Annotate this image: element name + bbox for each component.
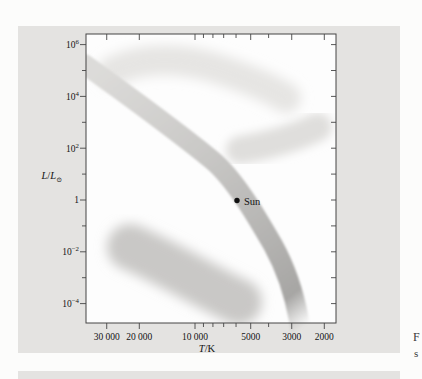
page-background: 30 00020 00010 0005000300020001061041021… (0, 0, 422, 379)
x-tick-label: 30 000 (94, 332, 120, 342)
x-tick-label: 2000 (315, 332, 334, 342)
sun-label: Sun (244, 196, 261, 207)
caption-fragment-2: s (414, 347, 418, 359)
hr-diagram: 30 00020 00010 0005000300020001061041021… (0, 0, 422, 379)
y-tick-label: 104 (66, 90, 80, 102)
x-tick-label: 20 000 (126, 332, 152, 342)
x-tick-label: 10 000 (182, 332, 208, 342)
x-tick-label: 5000 (241, 332, 260, 342)
y-tick-label: 106 (66, 38, 80, 50)
x-axis-title: T/K (199, 343, 216, 354)
caption-fragment-1: F (413, 331, 420, 343)
y-tick-label: 10−2 (62, 245, 79, 257)
x-tick-label: 3000 (282, 332, 301, 342)
y-axis-title: L/L⊙ (41, 170, 63, 184)
y-tick-label: 10−4 (62, 297, 79, 309)
sun-marker (234, 198, 239, 203)
y-tick-label: 1 (74, 195, 79, 205)
y-tick-label: 102 (66, 142, 80, 154)
